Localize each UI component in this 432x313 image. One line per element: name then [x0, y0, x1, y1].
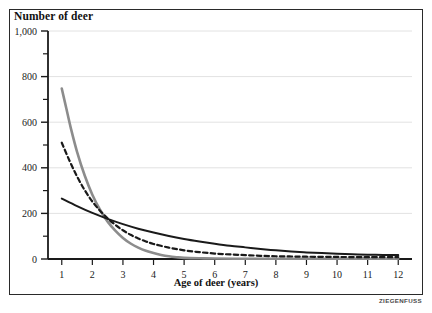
y-tick-label: 0	[32, 254, 37, 265]
y-tick-label: 200	[22, 208, 37, 219]
chart-plot-area: 02004006008001,000 123456789101112	[0, 0, 432, 313]
y-tick-label: 400	[22, 162, 37, 173]
series-gray-curve	[62, 88, 398, 258]
y-tick-labels-group: 02004006008001,000	[15, 26, 38, 265]
y-tick-label: 600	[22, 117, 37, 128]
y-tick-label: 800	[22, 71, 37, 82]
series-dashed-curve	[62, 143, 398, 257]
x-axis-title: Age of deer (years)	[0, 277, 432, 288]
credit-line: ZIEGENFUSS	[379, 297, 422, 304]
axis-lines-group	[48, 31, 412, 259]
deer-population-figure: Number of deer 02004006008001,000 123456…	[0, 0, 432, 313]
y-tick-label: 1,000	[15, 26, 38, 37]
gridlines-group	[48, 31, 412, 213]
data-series-group	[62, 88, 398, 258]
